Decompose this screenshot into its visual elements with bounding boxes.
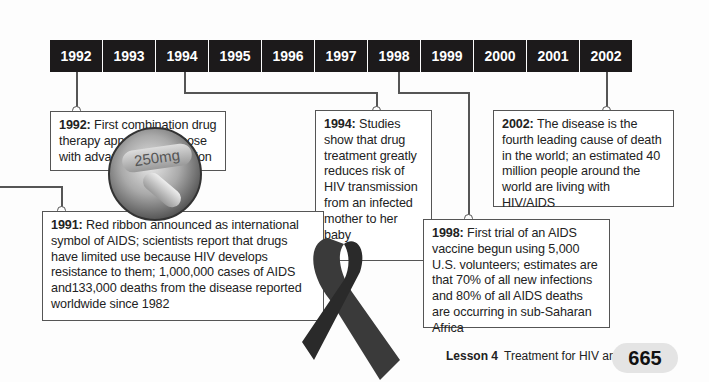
- connector-1992: [76, 72, 78, 110]
- red-ribbon-icon: [300, 230, 420, 380]
- event-1991-text: Red ribbon announced as international sy…: [51, 218, 302, 311]
- event-1991: 1991: Red ribbon announced as internatio…: [42, 211, 324, 321]
- year-1994: 1994: [156, 40, 208, 72]
- event-1992-year: 1992:: [59, 118, 91, 132]
- event-1998-year: 1998:: [432, 226, 464, 240]
- year-1996: 1996: [262, 40, 314, 72]
- year-1999: 1999: [421, 40, 473, 72]
- event-1994-year: 1994:: [324, 117, 356, 131]
- event-1998-text: First trial of an AIDS vaccine begun usi…: [432, 226, 598, 335]
- connector-1998-drop: [468, 92, 470, 218]
- event-1998: 1998: First trial of an AIDS vaccine beg…: [423, 219, 610, 328]
- year-1997: 1997: [315, 40, 367, 72]
- pill-label: 250mg: [121, 142, 193, 174]
- year-1992: 1992: [50, 40, 102, 72]
- connector-1994-vertical: [184, 72, 186, 93]
- event-1991-year: 1991:: [51, 218, 83, 232]
- event-2002: 2002: The disease is the fourth leading …: [493, 110, 674, 207]
- year-timeline-bar: 1992 1993 1994 1995 1996 1997 1998 1999 …: [50, 40, 632, 72]
- year-2001: 2001: [527, 40, 579, 72]
- year-2000: 2000: [474, 40, 526, 72]
- pill-capsule-shape: [139, 169, 184, 211]
- event-2002-year: 2002:: [502, 117, 534, 131]
- connector-1991-horizontal: [0, 186, 62, 188]
- year-1995: 1995: [209, 40, 261, 72]
- year-2002: 2002: [580, 40, 632, 72]
- event-1994-text: Studies show that drug treatment greatly…: [324, 117, 418, 242]
- year-1998: 1998: [368, 40, 420, 72]
- connector-1994-horizontal: [184, 92, 377, 94]
- pill-capsule-image: 250mg: [108, 127, 202, 221]
- connector-1998-vertical: [398, 72, 400, 93]
- page-number: 665: [612, 343, 678, 373]
- year-1993: 1993: [103, 40, 155, 72]
- lesson-number: Lesson 4: [446, 349, 498, 363]
- connector-1998-horizontal: [398, 92, 468, 94]
- connector-2002: [606, 72, 608, 110]
